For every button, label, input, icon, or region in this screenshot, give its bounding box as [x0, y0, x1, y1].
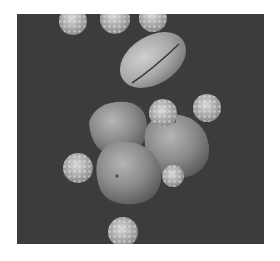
micrograph-render: [17, 14, 264, 244]
elongated-pollen-grain: [110, 21, 196, 100]
pollen-micrograph: [17, 14, 264, 244]
